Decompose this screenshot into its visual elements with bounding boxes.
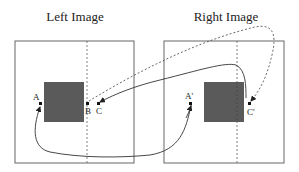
left-image-title: Left Image (46, 9, 104, 24)
point-a (39, 102, 42, 105)
label-a: A (33, 92, 40, 102)
right-image-title: Right Image (194, 9, 259, 24)
label-b: B (85, 106, 91, 116)
point-c-prime (248, 102, 251, 105)
label-c: C (96, 106, 102, 116)
point-a-prime (189, 102, 192, 105)
label-c-prime: C' (247, 107, 255, 117)
left-occluder-square (44, 82, 84, 122)
left-image-panel: A B C (15, 41, 134, 163)
point-b (86, 102, 89, 105)
right-image-panel: A' C' (164, 41, 284, 163)
label-a-prime: A' (185, 91, 193, 101)
point-c (97, 102, 100, 105)
right-occluder-square (204, 82, 244, 122)
stereo-correspondence-diagram: Left Image Right Image A B C A' C' (0, 0, 299, 172)
